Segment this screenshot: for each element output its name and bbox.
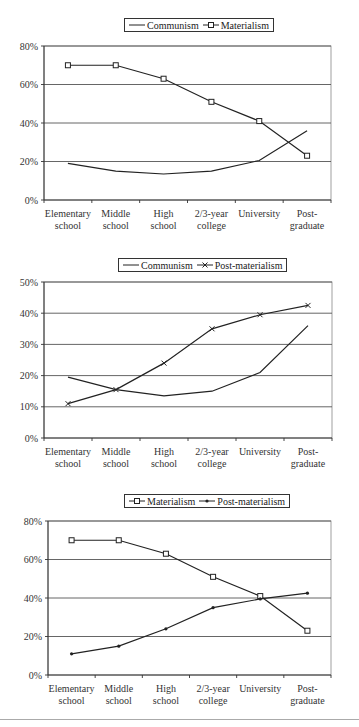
x-category-label: graduate [290, 695, 325, 706]
x-category-label: High [156, 683, 176, 694]
x-category-label: Post- [297, 683, 318, 694]
x-category-label: University [239, 683, 281, 694]
y-tick-label: 40% [24, 593, 42, 604]
x-category-label: school [153, 695, 179, 706]
plot-area: 0%20%40%60%80%ElementaryschoolMiddlescho… [0, 0, 359, 727]
x-category-label: 2/3-year [196, 683, 230, 694]
series-line-materialism [72, 540, 308, 630]
y-tick-label: 60% [24, 554, 42, 565]
line-chart-3: MaterialismPost-materialism0%20%40%60%80… [0, 0, 359, 727]
page-divider [0, 719, 359, 720]
x-category-label: college [199, 695, 228, 706]
x-category-label: Elementary [49, 683, 95, 694]
y-tick-label: 80% [24, 516, 42, 527]
y-tick-label: 0% [29, 670, 42, 681]
x-category-label: Middle [104, 683, 133, 694]
x-category-label: school [106, 695, 132, 706]
y-tick-label: 20% [24, 631, 42, 642]
x-category-label: school [59, 695, 85, 706]
series-line-post-materialism [72, 593, 308, 654]
